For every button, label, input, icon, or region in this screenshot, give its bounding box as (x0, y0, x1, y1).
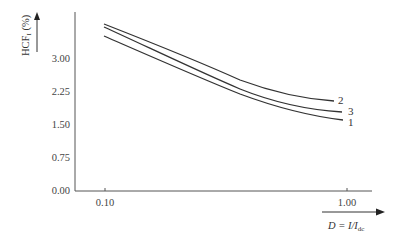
curve-3 (104, 27, 342, 112)
x-tick-label: 0.10 (96, 197, 114, 208)
y-title-unit: (%) (20, 14, 32, 33)
x-arrow-icon (376, 209, 385, 216)
x-title-sub: dc (358, 225, 365, 233)
chart: 3.00 2.25 1.50 0.75 0.00 0.10 1.00 2 3 1… (0, 0, 395, 239)
curve-label-1: 1 (348, 116, 354, 128)
y-tick-label: 0.00 (52, 185, 70, 196)
x-tick-label: 1.00 (338, 197, 356, 208)
curve-label-2: 2 (338, 94, 344, 106)
y-tick-label: 2.25 (52, 86, 70, 97)
y-arrow-icon (34, 12, 40, 20)
x-title-main: D = I/I (327, 220, 358, 231)
curve-2 (104, 24, 334, 101)
x-axis-title: D = I/Idc (327, 220, 364, 233)
y-tick-label: 3.00 (52, 53, 70, 64)
y-axis-title: HCFI (%) (20, 14, 33, 56)
y-tick-label: 0.75 (52, 152, 70, 163)
y-title-main: HCF (20, 35, 31, 56)
y-tick-label: 1.50 (52, 119, 70, 130)
